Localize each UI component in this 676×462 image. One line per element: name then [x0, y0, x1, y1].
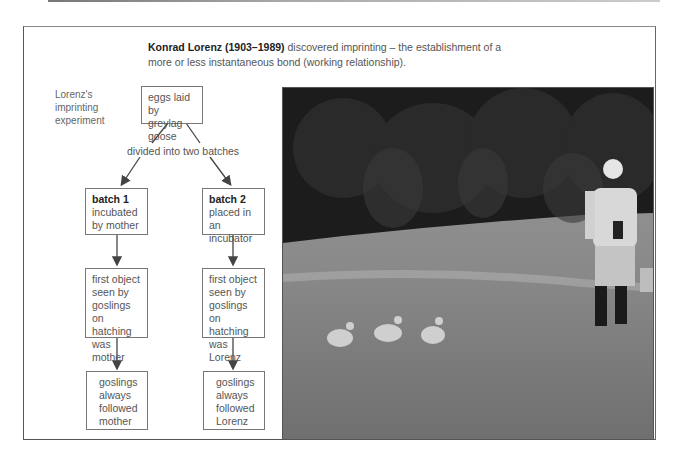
- batch2-seen-box: first object seen by goslings on hatchin…: [202, 268, 265, 338]
- batch1-result-box: goslings always followed mother: [86, 371, 148, 430]
- batch1-title: batch 1: [92, 193, 141, 206]
- lorenz-photo: [282, 87, 654, 440]
- batch1-box: batch 1 incubated by mother: [85, 188, 148, 235]
- photo-illustration: [283, 88, 654, 440]
- batch2-desc: placed in an incubator: [209, 206, 252, 244]
- batch1-desc: incubated by mother: [92, 206, 139, 231]
- batch2-result-box: goslings always followed Lorenz: [203, 371, 265, 430]
- split-label: divided into two batches: [125, 145, 241, 157]
- root-box: eggs laid by greylag goose: [141, 86, 203, 124]
- batch1-seen-box: first object seen by goslings on hatchin…: [85, 268, 148, 338]
- batch2-box: batch 2 placed in an incubator: [202, 188, 265, 235]
- batch2-title: batch 2: [209, 193, 258, 206]
